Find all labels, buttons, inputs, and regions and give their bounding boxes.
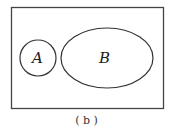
- set-a-label: A: [30, 49, 43, 67]
- set-b-label: B: [98, 49, 110, 67]
- venn-diagram: A B ( b ): [0, 0, 173, 136]
- caption: ( b ): [75, 114, 98, 127]
